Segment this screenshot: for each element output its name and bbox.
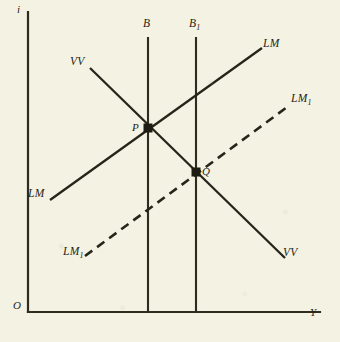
- curve-label-vv-lower: VV: [283, 247, 298, 259]
- curve-label-lm1-lower-subscript: 1: [80, 251, 84, 260]
- point-label-q: Q: [202, 166, 210, 177]
- point-marker-q: [192, 168, 201, 177]
- curve-label-vv-upper: VV: [70, 56, 85, 68]
- diagram-canvas: [0, 0, 340, 342]
- economics-diagram-figure: i Y O B B1 VV VV LM LM LM1 LM1 P Q: [0, 0, 340, 342]
- y-axis-label: i: [17, 4, 20, 15]
- curve-label-lm1-upper-base: LM: [291, 92, 308, 104]
- curve-label-b1: B1: [189, 18, 200, 32]
- curve-label-lm1-lower: LM1: [63, 246, 84, 260]
- curve-lm: [50, 48, 262, 200]
- curve-label-lm1-lower-base: LM: [63, 245, 80, 257]
- curve-label-lm1-upper-subscript: 1: [308, 98, 312, 107]
- curve-label-lm1-upper: LM1: [291, 93, 312, 107]
- origin-label: O: [13, 300, 21, 311]
- point-marker-p: [144, 124, 153, 133]
- curve-label-b: B: [143, 18, 150, 30]
- curve-label-b1-subscript: 1: [196, 23, 200, 32]
- curve-label-lm-upper: LM: [263, 38, 280, 50]
- point-label-p: P: [132, 122, 139, 133]
- curve-vv: [90, 68, 285, 258]
- curve-label-lm-lower: LM: [28, 188, 45, 200]
- x-axis-label: Y: [310, 307, 316, 318]
